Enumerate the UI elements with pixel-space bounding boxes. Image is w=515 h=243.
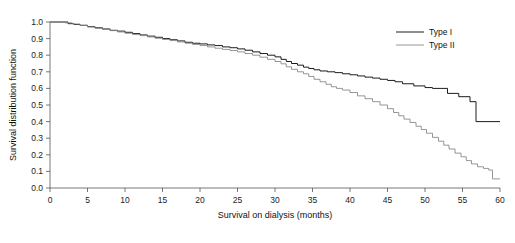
y-axis-title: Survival distribution function <box>8 49 18 161</box>
x-tick-label: 55 <box>458 195 468 205</box>
x-tick-label: 25 <box>233 195 243 205</box>
x-tick-label: 60 <box>495 195 505 205</box>
x-tick-label: 10 <box>120 195 130 205</box>
legend-label-type-i: Type I <box>429 27 452 37</box>
x-tick-label: 20 <box>195 195 205 205</box>
y-tick-label: 1.0 <box>31 17 43 27</box>
x-tick-label: 35 <box>308 195 318 205</box>
x-tick-label: 0 <box>48 195 53 205</box>
x-tick-label: 40 <box>345 195 355 205</box>
y-tick-label: 0.1 <box>31 166 43 176</box>
x-tick-label: 30 <box>270 195 280 205</box>
y-tick-label: 0.7 <box>31 67 43 77</box>
x-tick-label: 15 <box>158 195 168 205</box>
x-tick-label: 45 <box>383 195 393 205</box>
x-axis-ticks: 051015202530354045505560 <box>48 188 505 205</box>
y-tick-label: 0.9 <box>31 34 43 44</box>
y-tick-label: 0.6 <box>31 83 43 93</box>
y-tick-label: 0.2 <box>31 150 43 160</box>
y-tick-label: 0.0 <box>31 183 43 193</box>
chart-legend: Type I Type II <box>396 27 455 50</box>
plot-canvas: 0.00.10.20.30.40.50.60.70.80.91.0 051015… <box>0 0 515 243</box>
survival-chart-figure: 0.00.10.20.30.40.50.60.70.80.91.0 051015… <box>0 0 515 243</box>
x-axis-title: Survival on dialysis (months) <box>218 210 333 220</box>
legend-label-type-ii: Type II <box>429 40 455 50</box>
y-tick-label: 0.5 <box>31 100 43 110</box>
x-tick-label: 5 <box>85 195 90 205</box>
y-tick-label: 0.3 <box>31 133 43 143</box>
y-tick-label: 0.4 <box>31 117 43 127</box>
x-tick-label: 50 <box>420 195 430 205</box>
y-tick-label: 0.8 <box>31 50 43 60</box>
y-axis-ticks: 0.00.10.20.30.40.50.60.70.80.91.0 <box>31 17 50 193</box>
